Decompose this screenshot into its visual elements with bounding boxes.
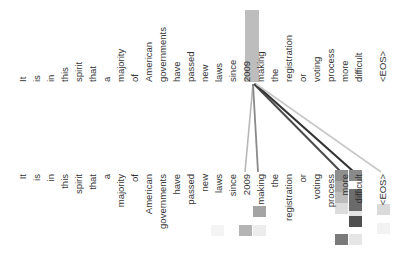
- target-token: registration: [283, 174, 294, 221]
- target-token: is: [31, 174, 42, 181]
- target-token: American: [143, 174, 154, 214]
- attention-link-making: [253, 84, 258, 172]
- target-token: in: [45, 174, 56, 181]
- target-token: spirit: [73, 174, 84, 194]
- attention-link-eos: [256, 84, 381, 172]
- heatmap-cell-more: [335, 203, 348, 214]
- target-token: <EOS>: [377, 174, 388, 205]
- target-token: have: [171, 174, 182, 195]
- target-token: majority: [115, 174, 126, 207]
- heatmap-cell-making: [253, 206, 266, 217]
- heatmap-cell-eos: [377, 223, 390, 234]
- attention-link-2009: [245, 84, 253, 172]
- target-token: or: [297, 174, 308, 182]
- target-token: difficult: [353, 174, 364, 203]
- target-token: laws: [213, 174, 224, 193]
- target-token: It: [17, 174, 28, 179]
- target-token: making: [255, 174, 266, 205]
- attention-link-difficult: [255, 84, 354, 172]
- target-token: this: [59, 174, 70, 189]
- heatmap-cell-more: [335, 234, 348, 245]
- target-token: the: [269, 174, 280, 187]
- target-token: more: [339, 174, 350, 196]
- target-token: that: [87, 174, 98, 190]
- target-token: governments: [157, 174, 168, 229]
- target-token: voting: [311, 174, 322, 199]
- target-token: new: [199, 174, 210, 191]
- target-token: of: [129, 174, 140, 182]
- attention-link-more: [254, 84, 341, 172]
- heatmap-cell-difficult: [349, 234, 362, 245]
- target-token: process: [325, 174, 336, 207]
- heatmap-cell-2009: [239, 225, 252, 236]
- heatmap-cell-difficult: [349, 216, 362, 227]
- heatmap-cell-eos: [377, 204, 390, 215]
- target-token: 2009: [241, 174, 252, 195]
- target-token: a: [101, 174, 112, 179]
- target-token: passed: [185, 174, 196, 205]
- target-token: since: [227, 174, 238, 196]
- attention-diagram: It is in this spirit that a majority of …: [0, 0, 411, 254]
- heatmap-cell-making: [253, 225, 266, 236]
- heatmap-cell-laws: [211, 225, 224, 236]
